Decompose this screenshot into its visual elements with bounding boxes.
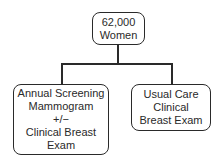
child-node-line: Annual Screening (18, 87, 105, 100)
connector-left-vertical (61, 63, 63, 84)
root-node-line: 62,000 (102, 16, 136, 29)
root-node-line: Women (100, 29, 138, 42)
child-node-annual-screening: Annual Screening Mammogram +/− Clinical … (13, 84, 109, 155)
child-node-usual-care: Usual Care Clinical Breast Exam (131, 84, 211, 131)
root-node-women: 62,000 Women (92, 12, 145, 45)
child-node-line: Mammogram (29, 100, 94, 113)
child-node-line: Exam (47, 139, 75, 152)
connector-right-vertical (171, 63, 173, 84)
child-node-line: Usual Care (143, 88, 198, 101)
child-node-line: Clinical Breast (26, 126, 96, 139)
connector-root-vertical (117, 45, 119, 64)
child-node-line: Clinical (153, 101, 188, 114)
child-node-line: +/− (53, 113, 69, 126)
connector-horizontal (61, 63, 173, 65)
child-node-line: Breast Exam (140, 114, 203, 127)
